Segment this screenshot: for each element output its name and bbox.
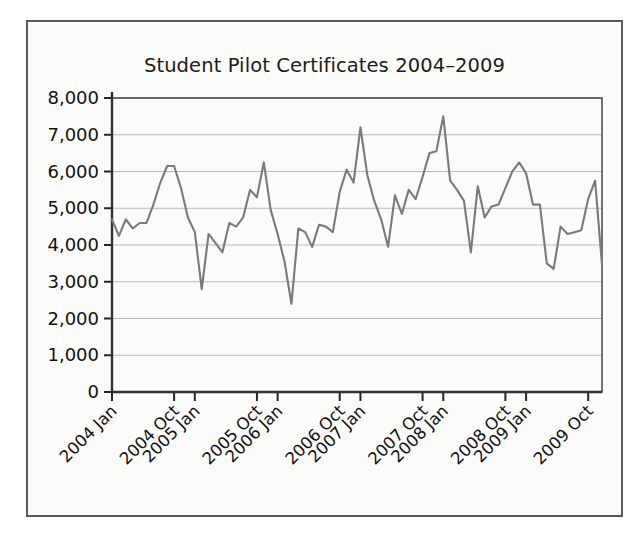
- y-axis-tick-label: 8,000: [47, 87, 99, 108]
- y-axis-tick-label: 1,000: [47, 344, 99, 365]
- data-series-group: [112, 116, 602, 303]
- y-axis-tick-label: 5,000: [47, 197, 99, 218]
- y-axis-tick-label: 2,000: [47, 308, 99, 329]
- y-axis-tick-label: 7,000: [47, 124, 99, 145]
- y-axis-tick-label: 6,000: [47, 161, 99, 182]
- axis-lines-group: [112, 92, 602, 392]
- gridlines-group: [112, 98, 602, 355]
- y-axis-tick-label: 4,000: [47, 234, 99, 255]
- y-axis-labels-group: 01,0002,0003,0004,0005,0006,0007,0008,00…: [47, 87, 99, 402]
- x-axis-tick-label: 2004 Jan: [56, 401, 121, 466]
- x-axis-ticks-group: [112, 392, 588, 401]
- data-line-student-pilot-certificates: [112, 116, 602, 303]
- plot-area-wrapper: 01,0002,0003,0004,0005,0006,0007,0008,00…: [28, 22, 625, 519]
- line-chart-svg: 01,0002,0003,0004,0005,0006,0007,0008,00…: [28, 22, 625, 519]
- x-axis-labels-group: 2004 Jan2004 Oct2005 Jan2005 Oct2006 Jan…: [56, 401, 597, 468]
- x-axis-tick-label: 2009 Oct: [530, 401, 597, 468]
- y-axis-tick-label: 3,000: [47, 271, 99, 292]
- y-axis-tick-label: 0: [88, 381, 99, 402]
- chart-figure-frame: Student Pilot Certificates 2004–2009 01,…: [26, 20, 623, 517]
